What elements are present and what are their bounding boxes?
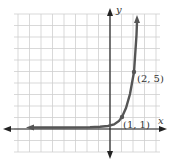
y-axis-down-arrow-icon — [107, 151, 113, 159]
curve-up-arrow-icon — [134, 15, 140, 23]
x-axis-left-arrow-icon — [3, 126, 11, 132]
graph: x y (1, 1) (2, 5) — [0, 0, 173, 164]
point-2-5 — [132, 70, 136, 74]
point-1-1-label: (1, 1) — [123, 119, 150, 130]
point-2-5-label: (2, 5) — [137, 73, 164, 84]
y-axis-up-arrow-icon — [107, 8, 113, 16]
x-axis-label: x — [158, 115, 164, 126]
y-axis-label: y — [115, 4, 122, 15]
x-axis-right-arrow-icon — [159, 126, 167, 132]
curve-left-arrow-icon — [26, 125, 34, 131]
